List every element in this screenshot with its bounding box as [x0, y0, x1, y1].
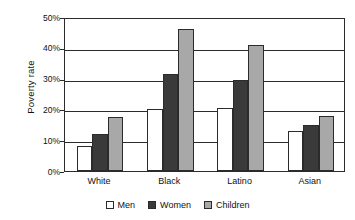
x-axis-category-label: Latino — [205, 175, 275, 187]
y-axis-tick-label: 30% — [30, 75, 60, 84]
x-axis-category-labels: WhiteBlackLatinoAsian — [64, 175, 345, 189]
bar — [233, 80, 249, 171]
plot-area — [64, 18, 345, 172]
y-axis-tick-label: 10% — [30, 137, 60, 146]
legend-item[interactable]: Children — [204, 199, 250, 211]
x-axis-category-label: Asian — [275, 175, 345, 187]
x-axis-category-label: Black — [134, 175, 204, 187]
legend-label: Women — [160, 199, 191, 211]
bar — [248, 45, 264, 171]
bar-group — [77, 19, 124, 171]
legend-item[interactable]: Women — [148, 199, 191, 211]
bar — [319, 116, 335, 171]
legend-label: Children — [216, 199, 250, 211]
y-axis-tick-labels: 0%10%20%30%40%50% — [30, 0, 60, 220]
x-axis-category-label: White — [64, 175, 134, 187]
bar — [77, 146, 93, 171]
y-axis-tick-label: 0% — [30, 168, 60, 177]
legend-swatch-icon — [148, 201, 156, 209]
bar — [303, 125, 319, 171]
bar — [217, 108, 233, 171]
bar — [108, 117, 124, 171]
bar — [288, 131, 304, 171]
bar-group — [288, 19, 335, 171]
poverty-rate-bar-chart: Poverty rate 0%10%20%30%40%50% WhiteBlac… — [0, 0, 355, 220]
bar — [178, 29, 194, 171]
y-axis-tick-label: 50% — [30, 14, 60, 23]
legend-swatch-icon — [204, 201, 212, 209]
y-axis-tick-label: 40% — [30, 44, 60, 53]
bar — [92, 134, 108, 171]
bars-layer — [65, 19, 344, 171]
bar-group — [147, 19, 194, 171]
bar — [163, 74, 179, 171]
bar-group — [217, 19, 264, 171]
legend-label: Men — [118, 199, 136, 211]
legend-swatch-icon — [106, 201, 114, 209]
legend: MenWomenChildren — [0, 197, 355, 213]
y-axis-tickmark — [60, 172, 64, 173]
legend-item[interactable]: Men — [106, 199, 136, 211]
bar — [147, 109, 163, 171]
y-axis-tick-label: 20% — [30, 106, 60, 115]
